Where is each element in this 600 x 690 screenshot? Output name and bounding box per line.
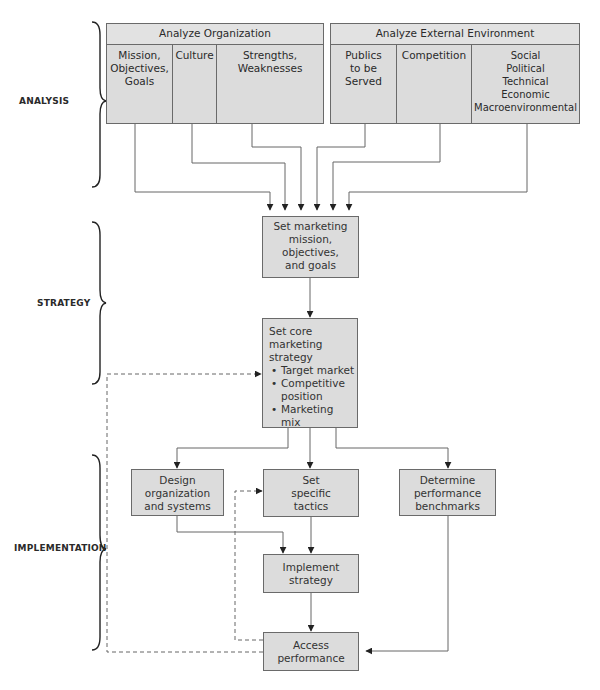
phase-label-analysis: ANALYSIS xyxy=(19,96,69,106)
design-organization-box: Design organization and systems xyxy=(131,469,224,516)
benchmarks-box: Determine performance benchmarks xyxy=(399,469,496,516)
phase-braces xyxy=(92,22,106,650)
bullet-target-market: Target market xyxy=(269,364,357,377)
core-strategy-bullets: Target market Competitive position Marke… xyxy=(269,364,357,429)
core-strategy-box: Set core marketing strategy Target marke… xyxy=(262,318,358,428)
analyze-organization-box: Analyze Organization Mission, Objectives… xyxy=(106,23,324,124)
org-culture-cell: Culture xyxy=(173,45,217,124)
analyze-external-box: Analyze External Environment Publics to … xyxy=(330,23,580,124)
bullet-competitive-position: Competitive position xyxy=(269,377,357,403)
design-organization-label: Design organization and systems xyxy=(132,474,223,513)
analyze-external-title: Analyze External Environment xyxy=(331,24,579,45)
org-mission-cell: Mission, Objectives, Goals xyxy=(107,45,173,124)
phase-label-implementation: IMPLEMENTATION xyxy=(14,543,107,553)
set-tactics-label: Set specific tactics xyxy=(264,474,358,513)
phase-label-strategy: STRATEGY xyxy=(37,298,90,308)
set-tactics-box: Set specific tactics xyxy=(263,469,359,517)
access-performance-box: Access performance xyxy=(263,632,359,671)
ext-competition-cell: Competition xyxy=(397,45,472,124)
implement-strategy-label: Implement strategy xyxy=(264,561,358,587)
set-mission-box: Set marketing mission, objectives, and g… xyxy=(262,216,359,278)
analyze-organization-title: Analyze Organization xyxy=(107,24,323,45)
core-strategy-title: Set core marketing strategy xyxy=(269,325,357,364)
set-mission-label: Set marketing mission, objectives, and g… xyxy=(263,220,358,272)
ext-publics-cell: Publics to be Served xyxy=(331,45,397,124)
org-strengths-cell: Strengths, Weaknesses xyxy=(217,45,323,124)
bullet-marketing-mix: Marketing mix xyxy=(269,403,357,429)
ext-macro-cell: Social Political Technical Economic Macr… xyxy=(472,45,579,124)
benchmarks-label: Determine performance benchmarks xyxy=(400,474,495,513)
access-performance-label: Access performance xyxy=(264,639,358,665)
implement-strategy-box: Implement strategy xyxy=(263,554,359,593)
